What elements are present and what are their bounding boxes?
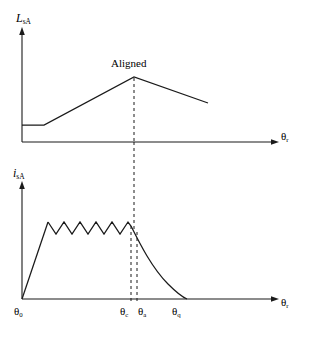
current-y-axis-label: isA [13, 167, 25, 181]
inductance-x-axis-label: θr [281, 131, 289, 144]
current-panel [19, 181, 279, 303]
current-rise-segment [22, 222, 48, 299]
current-x-axis-arrowhead [271, 296, 279, 302]
current-x-axis-label: θr [281, 297, 289, 310]
current-chopping-ripple [48, 222, 131, 234]
current-decay-segment [131, 226, 187, 299]
tick-label-theta-0: θ0 [14, 306, 23, 319]
inductance-y-axis-arrowhead [19, 27, 25, 35]
inductance-panel [19, 27, 279, 145]
current-y-axis-arrowhead [19, 181, 25, 189]
tick-label-theta-c: θc [120, 306, 128, 319]
srm-waveform-figure [0, 0, 309, 339]
tick-label-theta-a: θa [138, 306, 146, 319]
inductance-y-axis-label: LsA [16, 12, 31, 26]
inductance-x-axis-arrowhead [271, 139, 279, 145]
inductance-curve [22, 77, 208, 125]
aligned-annotation: Aligned [111, 58, 146, 69]
tick-label-theta-q: θq [172, 306, 181, 319]
